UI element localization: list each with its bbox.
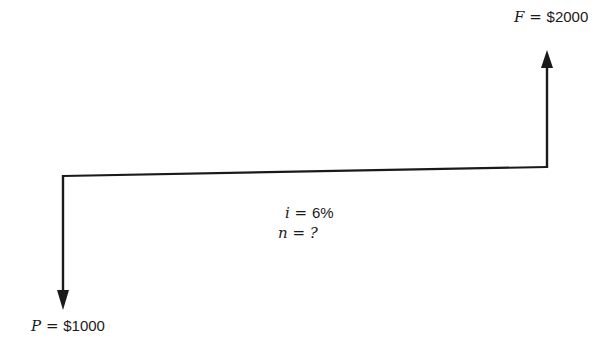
present-value-symbol: P (31, 317, 41, 335)
equals-sign: = (529, 8, 542, 26)
up-arrow-icon (541, 50, 553, 68)
periods-label: n = ? (278, 224, 318, 242)
interest-rate-label: i = 6% (285, 204, 334, 222)
future-value-amount: $2000 (547, 8, 589, 25)
interest-value: 6% (312, 204, 334, 221)
cash-flow-diagram (0, 0, 610, 344)
present-value-label: P = $1000 (31, 317, 105, 335)
time-axis-line (63, 167, 547, 176)
future-value-symbol: F (514, 8, 524, 26)
down-arrow-icon (57, 290, 69, 310)
periods-symbol: n (278, 224, 288, 242)
periods-value: ? (310, 224, 318, 242)
present-value-amount: $1000 (63, 317, 105, 334)
equals-sign: = (292, 224, 305, 242)
equals-sign: = (46, 317, 59, 335)
interest-symbol: i (285, 204, 290, 222)
future-value-label: F = $2000 (514, 8, 588, 26)
equals-sign: = (295, 204, 308, 222)
